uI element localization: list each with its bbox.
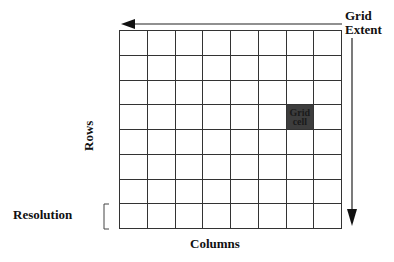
grid-extent-label-line2: Extent bbox=[345, 23, 382, 36]
raster-grid: Gridcell bbox=[119, 30, 342, 229]
grid-cell bbox=[314, 204, 342, 229]
arrow-down-icon bbox=[347, 209, 357, 226]
grid-cell bbox=[176, 56, 204, 81]
grid-cell bbox=[231, 204, 259, 229]
grid-cell bbox=[120, 130, 148, 155]
grid-cell-label-line2: cell bbox=[293, 117, 307, 126]
grid-cell bbox=[314, 180, 342, 205]
grid-cell bbox=[259, 180, 287, 205]
grid-cell bbox=[176, 130, 204, 155]
rows-label: Rows bbox=[82, 121, 95, 151]
grid-cell bbox=[176, 155, 204, 180]
grid-cell bbox=[203, 105, 231, 130]
grid-cell bbox=[287, 81, 315, 106]
grid-cell bbox=[176, 105, 204, 130]
grid-cell bbox=[120, 155, 148, 180]
grid-cell bbox=[176, 204, 204, 229]
grid-cell bbox=[120, 180, 148, 205]
grid-cell bbox=[259, 31, 287, 56]
grid-cell bbox=[231, 130, 259, 155]
grid-cell bbox=[176, 81, 204, 106]
grid-cell bbox=[314, 130, 342, 155]
grid-cell bbox=[203, 130, 231, 155]
grid-cell bbox=[287, 56, 315, 81]
grid-cell bbox=[259, 155, 287, 180]
grid-cell bbox=[259, 56, 287, 81]
grid-cell bbox=[120, 56, 148, 81]
grid-cell bbox=[287, 130, 315, 155]
grid-cell bbox=[120, 105, 148, 130]
grid-cell bbox=[148, 204, 176, 229]
raster-grid-diagram: Grid Extent Rows Columns Resolution Grid… bbox=[0, 0, 394, 262]
grid-cell bbox=[259, 130, 287, 155]
grid-cell bbox=[287, 180, 315, 205]
grid-cell bbox=[314, 81, 342, 106]
grid-cell bbox=[176, 180, 204, 205]
grid-cell bbox=[120, 81, 148, 106]
grid-cell bbox=[314, 31, 342, 56]
grid-cell bbox=[148, 130, 176, 155]
grid-cell bbox=[120, 204, 148, 229]
grid-cell bbox=[231, 105, 259, 130]
grid-cell bbox=[231, 31, 259, 56]
grid-cell bbox=[203, 81, 231, 106]
grid-cell bbox=[148, 155, 176, 180]
grid-cell bbox=[203, 155, 231, 180]
columns-label: Columns bbox=[190, 237, 240, 250]
grid-cell bbox=[259, 81, 287, 106]
resolution-label: Resolution bbox=[13, 208, 72, 221]
grid-cell bbox=[314, 105, 342, 130]
grid-cell bbox=[287, 155, 315, 180]
grid-cell bbox=[203, 180, 231, 205]
grid-cell bbox=[148, 180, 176, 205]
grid-cell bbox=[148, 56, 176, 81]
grid-cell bbox=[287, 204, 315, 229]
grid-cell bbox=[120, 31, 148, 56]
grid-extent-label-line1: Grid bbox=[345, 9, 372, 22]
grid-cell bbox=[259, 204, 287, 229]
grid-cell bbox=[314, 155, 342, 180]
grid-cell bbox=[231, 56, 259, 81]
grid-cell bbox=[148, 31, 176, 56]
grid-cell bbox=[148, 81, 176, 106]
grid-cell bbox=[231, 81, 259, 106]
grid-cell bbox=[148, 105, 176, 130]
grid-cell bbox=[203, 56, 231, 81]
resolution-bracket bbox=[104, 204, 109, 229]
grid-cell bbox=[203, 204, 231, 229]
grid-cell bbox=[176, 31, 204, 56]
grid-cell bbox=[287, 31, 315, 56]
grid-cell bbox=[314, 56, 342, 81]
grid-cell bbox=[203, 31, 231, 56]
grid-cell bbox=[259, 105, 287, 130]
grid-cell bbox=[231, 180, 259, 205]
grid-cell bbox=[231, 155, 259, 180]
highlighted-grid-cell: Gridcell bbox=[287, 105, 315, 130]
arrow-left-icon bbox=[121, 19, 135, 29]
